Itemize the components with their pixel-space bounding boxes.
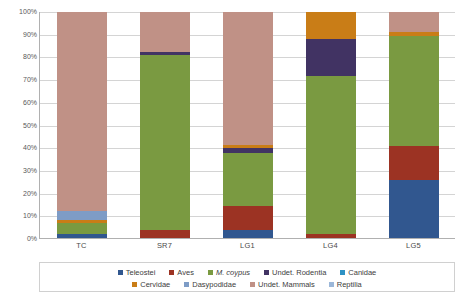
bar-segment[interactable] <box>57 234 107 239</box>
stacked-bar[interactable] <box>306 12 356 239</box>
bar-slot-lg4 <box>289 12 372 239</box>
y-axis-tick-label: 30% <box>3 167 37 175</box>
stacked-bar[interactable] <box>57 12 107 239</box>
y-axis-tick-label: 60% <box>3 99 37 107</box>
bar-segment[interactable] <box>223 230 273 239</box>
legend-item[interactable]: Dasypodidae <box>184 280 236 289</box>
bar-segment[interactable] <box>140 55 190 230</box>
y-axis-tick-label: 20% <box>3 190 37 198</box>
legend-swatch-icon <box>184 282 189 287</box>
bar-slot-lg5 <box>372 12 455 239</box>
bar-segment[interactable] <box>389 36 439 146</box>
bar-segment[interactable] <box>223 206 273 230</box>
bar-segment[interactable] <box>57 211 107 220</box>
legend-swatch-icon <box>340 270 345 275</box>
y-axis-tick-label: 70% <box>3 76 37 84</box>
legend-item[interactable]: Reptilia <box>329 280 362 289</box>
legend-item[interactable]: Undet. Mammals <box>250 280 315 289</box>
y-axis: 0%10%20%30%40%50%60%70%80%90%100% <box>0 12 37 239</box>
x-axis-labels: TCSR7LG1LG4LG5 <box>40 241 455 250</box>
bar-slot-sr7 <box>123 12 206 239</box>
bar-segment[interactable] <box>57 12 107 211</box>
legend-label: Aves <box>177 268 194 277</box>
legend-item[interactable]: Aves <box>169 268 194 277</box>
x-axis-tick-label: LG4 <box>289 241 372 250</box>
legend-label: Reptilia <box>337 280 362 289</box>
legend-swatch-icon <box>169 270 174 275</box>
bar-segment[interactable] <box>306 76 356 235</box>
legend-swatch-icon <box>250 282 255 287</box>
legend-item[interactable]: M. coypus <box>208 268 250 277</box>
legend-swatch-icon <box>264 270 269 275</box>
legend-item[interactable]: Canidae <box>340 268 376 277</box>
bar-segment[interactable] <box>140 230 190 239</box>
bar-segment[interactable] <box>389 146 439 180</box>
legend-swatch-icon <box>329 282 334 287</box>
bar-segment[interactable] <box>140 12 190 52</box>
x-axis-tick-label: LG1 <box>206 241 289 250</box>
legend-label: Undet. Rodentia <box>272 268 326 277</box>
legend-swatch-icon <box>118 270 123 275</box>
legend-label: Cervidae <box>140 280 170 289</box>
bar-segment[interactable] <box>223 12 273 145</box>
legend-item[interactable]: Teleostei <box>118 268 156 277</box>
bar-segment[interactable] <box>306 12 356 39</box>
bar-segment[interactable] <box>306 234 356 239</box>
legend-label: Undet. Mammals <box>258 280 315 289</box>
bar-segment[interactable] <box>223 153 273 206</box>
legend-item[interactable]: Cervidae <box>132 280 170 289</box>
legend-row-1: TeleosteiAvesM. coypusUndet. RodentiaCan… <box>46 266 448 278</box>
x-axis-tick-label: SR7 <box>123 241 206 250</box>
x-axis-tick-label: LG5 <box>372 241 455 250</box>
stacked-bar[interactable] <box>223 12 273 239</box>
y-axis-tick-label: 50% <box>3 122 37 130</box>
legend-label: Canidae <box>348 268 376 277</box>
stacked-bar[interactable] <box>140 12 190 239</box>
y-axis-tick-label: 100% <box>3 8 37 16</box>
legend-label: M. coypus <box>216 268 250 277</box>
bar-segment[interactable] <box>389 180 439 239</box>
bar-slot-lg1 <box>206 12 289 239</box>
y-axis-tick-label: 40% <box>3 144 37 152</box>
bar-segment[interactable] <box>389 12 439 32</box>
legend-label: Teleostei <box>126 268 156 277</box>
y-axis-tick-label: 90% <box>3 31 37 39</box>
legend-label: Dasypodidae <box>192 280 236 289</box>
y-axis-tick-label: 10% <box>3 212 37 220</box>
legend-row-2: CervidaeDasypodidaeUndet. MammalsReptili… <box>46 278 448 290</box>
bar-slot-tc <box>40 12 123 239</box>
chart-legend: TeleosteiAvesM. coypusUndet. RodentiaCan… <box>39 262 455 292</box>
bar-segment[interactable] <box>306 39 356 75</box>
y-axis-tick-label: 80% <box>3 53 37 61</box>
stacked-bar-chart: 0%10%20%30%40%50%60%70%80%90%100% TCSR7L… <box>0 0 468 300</box>
bars-layer <box>40 12 455 239</box>
stacked-bar[interactable] <box>389 12 439 239</box>
x-axis-tick-label: TC <box>40 241 123 250</box>
legend-swatch-icon <box>132 282 137 287</box>
legend-item[interactable]: Undet. Rodentia <box>264 268 326 277</box>
bar-segment[interactable] <box>57 223 107 234</box>
y-axis-tick-label: 0% <box>3 235 37 243</box>
legend-swatch-icon <box>208 270 213 275</box>
